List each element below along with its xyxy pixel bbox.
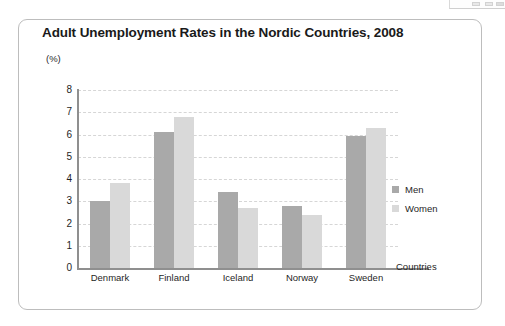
bar-iceland-men <box>218 192 238 268</box>
x-axis-category-label: Iceland <box>206 272 270 283</box>
x-axis-category-label: Norway <box>270 272 334 283</box>
gridline <box>78 90 398 91</box>
bar-norway-men <box>282 206 302 268</box>
bar-denmark-women <box>110 183 130 268</box>
bar-finland-women <box>174 117 194 268</box>
bar-iceland-women <box>238 208 258 268</box>
x-axis-title: Countries <box>396 261 437 272</box>
legend-label: Men <box>405 184 423 195</box>
gridline <box>78 112 398 113</box>
x-axis-category-label: Sweden <box>334 272 398 283</box>
y-axis-unit-label: (%) <box>46 53 61 64</box>
y-axis-tick-label: 3 <box>52 195 72 206</box>
x-axis-category-label: Denmark <box>78 272 142 283</box>
window-control-artifact <box>449 0 505 9</box>
bar-finland-men <box>154 132 174 268</box>
y-axis-tick-label: 0 <box>52 262 72 273</box>
bar-norway-women <box>302 215 322 268</box>
legend-item-men: Men <box>392 184 438 194</box>
bar-sweden-men <box>346 136 366 268</box>
plot-area <box>78 90 398 268</box>
chart-title: Adult Unemployment Rates in the Nordic C… <box>42 25 403 40</box>
bar-sweden-women <box>366 128 386 268</box>
legend-swatch-icon <box>392 186 399 193</box>
y-axis-tick-label: 5 <box>52 151 72 162</box>
x-axis-line <box>77 268 429 270</box>
y-axis-tick-label: 2 <box>52 218 72 229</box>
y-axis-tick-label: 1 <box>52 240 72 251</box>
artifact-tick-1 <box>472 2 480 6</box>
y-axis-tick-label: 4 <box>52 173 72 184</box>
y-axis-tick-label: 7 <box>52 106 72 117</box>
x-axis-category-label: Finland <box>142 272 206 283</box>
legend-label: Women <box>405 203 438 214</box>
legend-item-women: Women <box>392 203 438 213</box>
chart-legend: MenWomen <box>392 184 438 222</box>
legend-swatch-icon <box>392 205 399 212</box>
artifact-tick-2 <box>485 2 493 6</box>
y-axis-tick-label: 6 <box>52 129 72 140</box>
bar-denmark-men <box>90 201 110 268</box>
y-axis-line <box>77 89 79 269</box>
y-axis-tick-label: 8 <box>52 84 72 95</box>
artifact-tick-3 <box>496 2 504 6</box>
